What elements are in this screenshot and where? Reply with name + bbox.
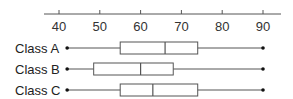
max-point bbox=[261, 46, 265, 50]
box-row-class-c: Class C bbox=[15, 83, 265, 98]
category-label: Class C bbox=[15, 83, 61, 98]
min-point bbox=[65, 88, 69, 92]
tick-label: 40 bbox=[52, 19, 66, 34]
category-label: Class B bbox=[15, 62, 60, 77]
min-point bbox=[65, 67, 69, 71]
max-point bbox=[261, 67, 265, 71]
category-label: Class A bbox=[15, 41, 59, 56]
tick-label: 50 bbox=[93, 19, 107, 34]
x-axis: 405060708090 bbox=[44, 10, 281, 34]
max-point bbox=[261, 88, 265, 92]
box-plot-rows: Class AClass BClass C bbox=[15, 41, 265, 98]
tick-label: 80 bbox=[215, 19, 229, 34]
min-point bbox=[65, 46, 69, 50]
box-row-class-a: Class A bbox=[15, 41, 265, 56]
iqr-box bbox=[120, 42, 198, 54]
iqr-box bbox=[120, 84, 198, 96]
tick-label: 60 bbox=[133, 19, 147, 34]
box-row-class-b: Class B bbox=[15, 62, 265, 77]
iqr-box bbox=[94, 63, 174, 75]
box-plot-chart: 405060708090 Class AClass BClass C bbox=[0, 0, 293, 99]
tick-label: 70 bbox=[174, 19, 188, 34]
tick-label: 90 bbox=[256, 19, 270, 34]
